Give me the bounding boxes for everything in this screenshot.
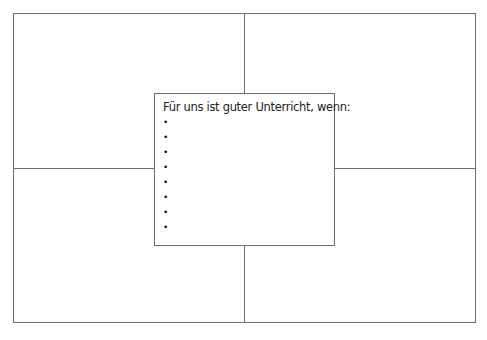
center-title: Für uns ist guter Unterricht, wenn: bbox=[163, 100, 334, 114]
bullet-item bbox=[163, 175, 334, 190]
center-box: Für uns ist guter Unterricht, wenn: bbox=[154, 93, 335, 246]
bullet-item bbox=[163, 145, 334, 160]
bullet-item bbox=[163, 205, 334, 220]
bullet-item bbox=[163, 220, 334, 235]
bullet-item bbox=[163, 160, 334, 175]
bullet-item bbox=[163, 115, 334, 130]
bullet-item bbox=[163, 130, 334, 145]
bullet-list bbox=[163, 115, 334, 235]
bullet-item bbox=[163, 190, 334, 205]
